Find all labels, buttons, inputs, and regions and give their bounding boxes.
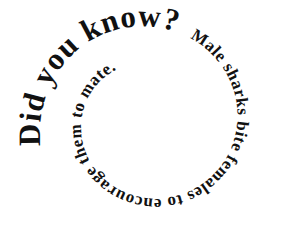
- fact-text: Male sharks bite females to encourage th…: [66, 25, 253, 214]
- spiral-svg: Did you know? Male sharks bite females t…: [0, 0, 286, 246]
- spiral-text: Did you know? Male sharks bite females t…: [12, 0, 253, 214]
- spiral-text-graphic: Did you know? Male sharks bite females t…: [0, 0, 286, 246]
